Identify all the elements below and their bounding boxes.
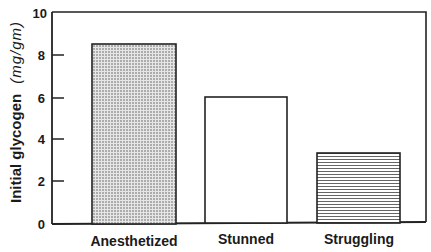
x-tick-labels: Anesthetized Stunned Struggling <box>90 231 394 249</box>
y-tick-labels: 0 2 4 6 8 10 <box>33 6 47 232</box>
bar-chart: 0 2 4 6 8 10 Anesthetized Stunned Strugg… <box>0 0 431 252</box>
x-label-struggling: Struggling <box>324 231 394 247</box>
y-tick-8: 8 <box>38 48 45 63</box>
bar-anesthetized <box>92 44 176 224</box>
y-ticks <box>52 55 64 181</box>
y-tick-4: 4 <box>38 132 46 147</box>
y-tick-2: 2 <box>38 174 45 189</box>
bar-struggling <box>317 153 400 223</box>
y-tick-6: 6 <box>38 91 45 106</box>
x-label-anesthetized: Anesthetized <box>90 233 177 249</box>
y-tick-10: 10 <box>33 6 47 21</box>
bar-stunned <box>205 97 287 223</box>
x-label-stunned: Stunned <box>218 231 274 247</box>
y-tick-0: 0 <box>38 217 45 232</box>
